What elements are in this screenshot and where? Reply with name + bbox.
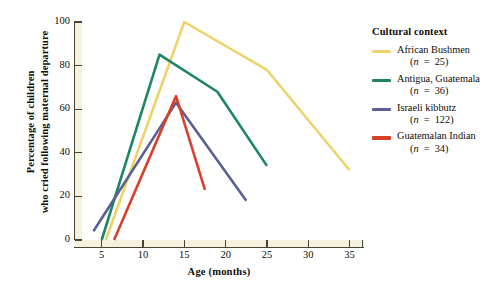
legend-series-sample-size: (n = 36) bbox=[397, 85, 480, 97]
legend-series-sample-size: (n = 25) bbox=[397, 56, 470, 68]
legend-color-swatch bbox=[372, 79, 391, 82]
legend-title: Cultural context bbox=[372, 26, 489, 37]
legend-item[interactable]: Antigua, Guatemala(n = 36) bbox=[372, 73, 489, 98]
legend-series-name: Antigua, Guatemala bbox=[397, 73, 480, 85]
legend-series-sample-size: (n = 34) bbox=[397, 143, 476, 155]
legend-items: African Bushmen(n = 25)Antigua, Guatemal… bbox=[372, 44, 489, 155]
legend-item[interactable]: African Bushmen(n = 25) bbox=[372, 44, 489, 69]
legend-color-swatch bbox=[372, 108, 391, 111]
legend-item[interactable]: Israeli kibbutz(n = 122) bbox=[372, 102, 489, 127]
legend-series-name: African Bushmen bbox=[397, 44, 470, 56]
chart-container: 020406080100 5101520253035 Percentage of… bbox=[0, 0, 489, 291]
legend-color-swatch bbox=[372, 136, 391, 139]
series-line bbox=[106, 22, 350, 240]
legend-text-block: Israeli kibbutz(n = 122) bbox=[397, 102, 456, 127]
legend-item[interactable]: Guatemalan Indian(n = 34) bbox=[372, 130, 489, 155]
series-line bbox=[114, 96, 205, 240]
legend-text-block: Guatemalan Indian(n = 34) bbox=[397, 130, 476, 155]
legend-color-swatch bbox=[372, 50, 391, 53]
legend-text-block: Antigua, Guatemala(n = 36) bbox=[397, 73, 480, 98]
legend: Cultural context African Bushmen(n = 25)… bbox=[372, 26, 489, 159]
legend-series-sample-size: (n = 122) bbox=[397, 114, 456, 126]
legend-series-name: Israeli kibbutz bbox=[397, 102, 456, 114]
legend-text-block: African Bushmen(n = 25) bbox=[397, 44, 470, 69]
legend-series-name: Guatemalan Indian bbox=[397, 130, 476, 142]
